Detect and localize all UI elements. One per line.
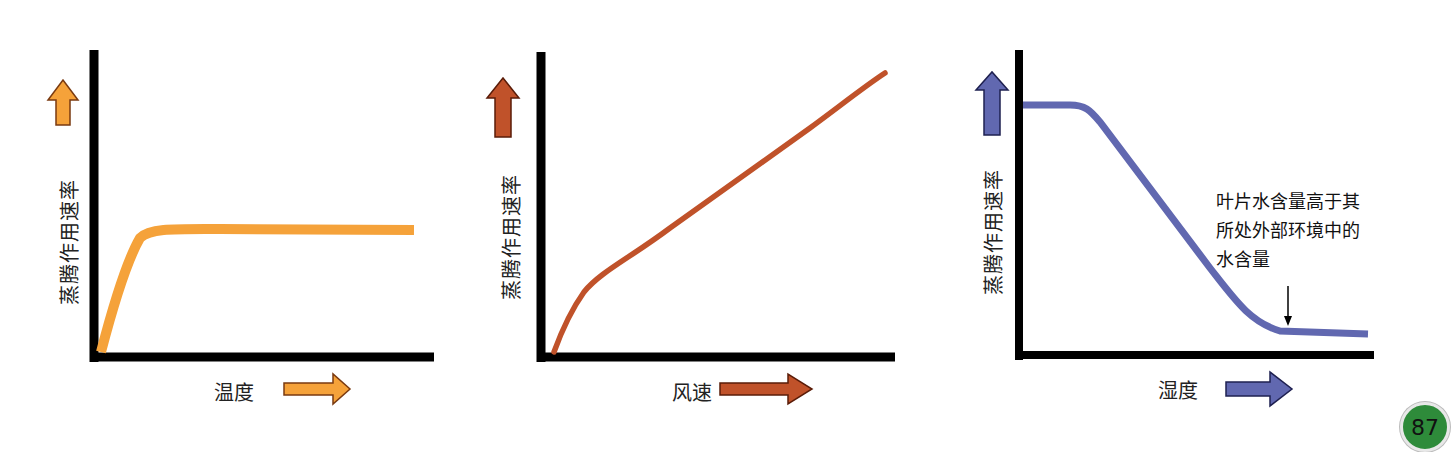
annotation-arrow-head-icon: [1284, 316, 1292, 326]
chart-panel-humidity: 蒸腾作用速率 湿度 叶片水含量高于其 所处外部环境中的 水含量: [960, 0, 1455, 447]
chart-panel-wind-speed: 蒸腾作用速率 风速: [470, 0, 930, 447]
page-number-badge: 87: [1400, 402, 1450, 452]
y-axis-up-arrow-icon: [48, 80, 78, 125]
annotation-line-2: 所处外部环境中的: [1216, 216, 1406, 245]
y-axis-label: 蒸腾作用速率: [54, 179, 83, 305]
annotation-line-3: 水含量: [1216, 245, 1406, 274]
x-axis-right-arrow-icon: [284, 374, 350, 404]
x-axis-label: 风速: [672, 377, 712, 406]
temperature-curve: [101, 229, 414, 352]
x-axis-label: 温度: [214, 377, 254, 406]
chart-panel-temperature: 蒸腾作用速率 温度: [0, 0, 470, 447]
annotation-line-1: 叶片水含量高于其: [1216, 187, 1406, 216]
x-axis-right-arrow-icon: [720, 374, 812, 404]
y-axis-label: 蒸腾作用速率: [496, 174, 525, 300]
y-axis-up-arrow-icon: [976, 72, 1008, 135]
x-axis-right-arrow-icon: [1226, 372, 1292, 406]
wind-speed-curve: [554, 73, 885, 352]
y-axis-label: 蒸腾作用速率: [978, 169, 1007, 295]
x-axis-label: 湿度: [1158, 375, 1198, 404]
annotation-text: 叶片水含量高于其 所处外部环境中的 水含量: [1216, 187, 1406, 274]
y-axis-up-arrow-icon: [487, 78, 519, 137]
